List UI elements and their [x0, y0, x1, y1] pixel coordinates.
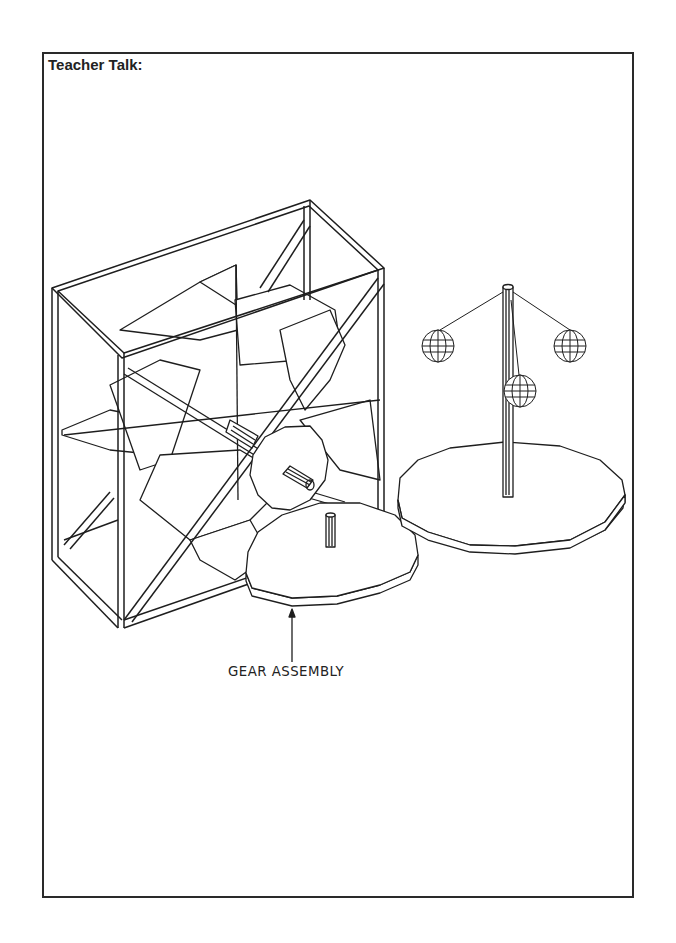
small-gear — [250, 426, 328, 510]
large-gear — [246, 503, 418, 606]
caption-arrow — [289, 609, 295, 662]
sphere-right — [554, 330, 586, 362]
figure-caption: GEAR ASSEMBLY — [228, 663, 344, 679]
sphere-left — [422, 330, 454, 362]
gear-assembly-diagram — [0, 0, 676, 943]
sphere-center — [504, 375, 536, 407]
